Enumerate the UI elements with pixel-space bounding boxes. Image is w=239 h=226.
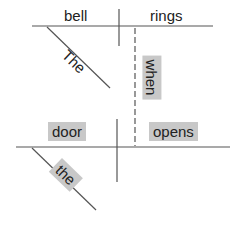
sub-verb-word: opens [149, 122, 198, 141]
main-verb-word: rings [150, 8, 183, 23]
main-subject-word: bell [64, 8, 87, 23]
diagram-lines [0, 0, 239, 226]
sub-subject-word: door [48, 122, 86, 141]
conjunction-word: when [142, 56, 161, 100]
